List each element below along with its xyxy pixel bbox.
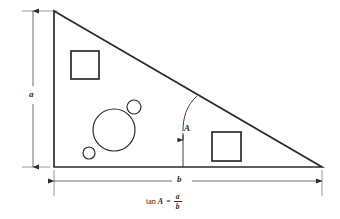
dimension-label-b: b [176,175,183,184]
interior-squares [71,51,241,161]
interior-circles [83,100,141,159]
small-circle [83,147,95,159]
formula-function-tan: tan [146,198,156,206]
formula-angle-var: A [158,198,163,206]
diagram-canvas [0,0,340,219]
triangle-outline [54,11,322,167]
triangle-shape [54,11,322,167]
large-circle [93,109,135,151]
medium-circle [127,100,141,114]
formula-numerator: a [174,193,182,201]
formula-equals-sign: = [165,198,172,206]
lower-right-square [212,132,241,161]
upper-left-square [71,51,99,79]
formula-fraction: a b [174,193,182,210]
formula-tan-a: tan A = a b [146,193,182,210]
formula-denominator: b [174,202,182,210]
angle-label-a: A [183,124,191,133]
figure-root: a b A tan A = a b [0,0,340,219]
extension-lines [22,11,322,196]
dimension-label-a: a [28,90,35,99]
